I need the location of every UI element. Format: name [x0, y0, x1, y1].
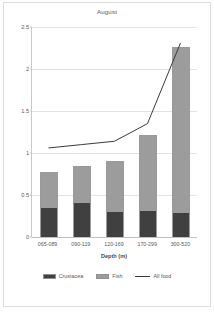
legend-line-marker-icon — [135, 276, 150, 277]
y-axis-tick-label: 1.5 — [21, 108, 29, 114]
x-axis-tick-label: 120-169 — [104, 241, 123, 247]
y-axis-tick-label: 2.5 — [21, 24, 29, 30]
x-axis-tick-label: 090-119 — [71, 241, 90, 247]
x-axis-tick-label: 300-520 — [171, 241, 190, 247]
chart-legend: CrustaceaFishAll food — [4, 273, 210, 279]
chart-container: August Stomach fullness (%) 00.511.522.5… — [3, 2, 211, 307]
legend-label: Crustacea — [59, 273, 84, 279]
plot-area: 00.511.522.5 — [31, 27, 197, 237]
y-axis-tick-label: 2 — [26, 66, 29, 72]
legend-label: All food — [153, 273, 171, 279]
legend-item[interactable]: Fish — [96, 273, 122, 279]
y-axis-tick-label: 0.5 — [21, 192, 29, 198]
legend-item[interactable]: Crustacea — [43, 273, 84, 279]
legend-item[interactable]: All food — [135, 273, 171, 279]
x-axis-tick-label: 065-089 — [38, 241, 57, 247]
legend-swatch-icon — [43, 274, 56, 279]
legend-label: Fish — [112, 273, 122, 279]
legend-swatch-icon — [96, 274, 109, 279]
gridline — [32, 237, 197, 238]
x-axis-title: Depth (m) — [31, 253, 197, 259]
x-axis-tick-label: 170-299 — [137, 241, 156, 247]
y-axis-tick-label: 0 — [26, 234, 29, 240]
x-axis-tick-labels: 065-089090-119120-169170-299300-520 — [31, 239, 197, 251]
y-axis-tick-label: 1 — [26, 150, 29, 156]
all-food-line-layer — [32, 27, 197, 237]
chart-title: August — [4, 8, 210, 15]
all-food-line — [49, 43, 181, 148]
